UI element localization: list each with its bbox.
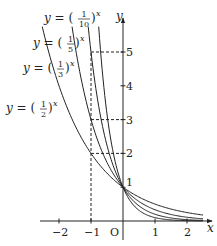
- curve-5: [88, 27, 203, 221]
- svg-text:y = (: y = (: [5, 101, 35, 115]
- svg-text:y = (: y = (: [32, 36, 62, 50]
- y-axis-label: y: [115, 9, 123, 23]
- curve-label-10: y = (110)x: [43, 9, 101, 29]
- origin-label: O: [110, 226, 119, 239]
- svg-text:1: 1: [41, 100, 46, 109]
- svg-text:2: 2: [41, 110, 46, 119]
- svg-text:1: 1: [68, 35, 73, 44]
- svg-text:): ): [48, 101, 53, 115]
- y-tick-label: 5: [126, 46, 133, 59]
- y-tick-label: 4: [126, 80, 133, 93]
- svg-text:5: 5: [68, 45, 73, 54]
- axis-ticks: −2−11212345: [52, 46, 191, 239]
- svg-text:x: x: [53, 99, 58, 108]
- svg-text:3: 3: [58, 70, 63, 79]
- svg-text:): ): [65, 61, 70, 75]
- svg-text:y = (: y = (: [43, 11, 73, 25]
- x-tick-label: 1: [152, 226, 159, 239]
- y-tick-label: 3: [126, 114, 133, 127]
- svg-text:): ): [91, 11, 96, 25]
- y-tick-label: 1: [126, 176, 133, 189]
- svg-text:10: 10: [79, 20, 89, 29]
- svg-text:): ): [75, 36, 80, 50]
- svg-text:x: x: [96, 9, 101, 18]
- x-tick-label: −1: [84, 226, 100, 239]
- exponential-chart: −2−11212345 y = (110)xy = (15)xy = (13)x…: [0, 0, 217, 246]
- curve-label-3: y = (13)x: [22, 59, 75, 79]
- svg-text:x: x: [80, 34, 85, 43]
- svg-text:1: 1: [58, 60, 63, 69]
- svg-text:x: x: [70, 59, 75, 68]
- curve-10: [99, 27, 203, 221]
- curve-label-5: y = (15)x: [32, 34, 85, 54]
- svg-text:1: 1: [81, 10, 86, 19]
- y-tick-label: 2: [126, 147, 133, 160]
- x-tick-label: 2: [184, 226, 191, 239]
- svg-text:y = (: y = (: [22, 61, 52, 75]
- curve-label-2: y = (12)x: [5, 99, 58, 119]
- x-axis-label: x: [207, 221, 214, 235]
- x-tick-label: −2: [52, 226, 68, 239]
